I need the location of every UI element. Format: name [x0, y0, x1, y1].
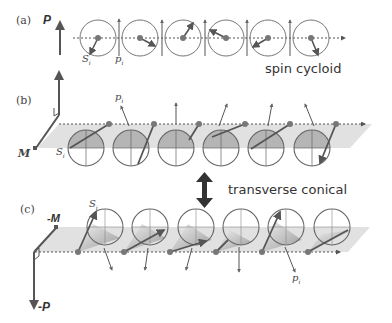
- polarization-label-a: P: [43, 13, 51, 27]
- magnetization-label-b: M: [18, 147, 30, 160]
- p-label-b: pi: [115, 91, 123, 104]
- magnetization-label-c: -M: [47, 212, 60, 224]
- spin-label-b: Si: [56, 146, 65, 159]
- panel-c-label: (c): [20, 203, 35, 216]
- polarization-label-c: -P: [38, 300, 50, 314]
- spin-label-c: Si: [89, 198, 98, 211]
- spin-cycloid-caption: spin cycloid: [265, 61, 341, 76]
- panel-a: [60, 19, 345, 56]
- spin-label-a: Si: [82, 53, 91, 66]
- panel-b: [33, 72, 372, 166]
- panel-c: [34, 209, 370, 308]
- p-label-a: pi: [115, 53, 123, 66]
- p-label-c: pi: [292, 272, 300, 285]
- double-headed-vertical-arrow: [196, 172, 213, 208]
- spin-structure-diagram: (a) P Si pi spin cycloid (b) M Si pi tra…: [0, 0, 392, 323]
- diagram-canvas: [0, 0, 392, 323]
- panel-a-label: (a): [16, 14, 31, 27]
- panel-b-label: (b): [16, 94, 32, 107]
- transverse-conical-caption: transverse conical: [228, 182, 347, 197]
